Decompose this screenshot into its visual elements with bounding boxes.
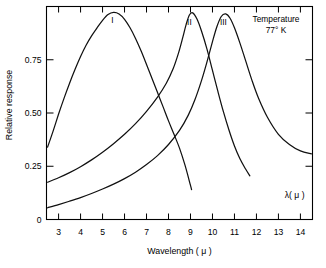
chart-figure: 3456789101112131400.250.500.75Wavelength… [0,0,326,268]
x-tick-label-13: 13 [274,227,284,237]
plot-border [47,7,313,220]
y-axis-title: Relative response [4,70,14,141]
curve-label-I: I [111,16,113,25]
relative-response-vs-wavelength-chart: 3456789101112131400.250.500.75Wavelength… [0,0,326,268]
axis-ticks [47,7,313,220]
x-tick-label-7: 7 [144,227,149,237]
lambda-axis-label: λ( μ ) [285,190,305,200]
x-tick-label-9: 9 [188,227,193,237]
curve-label-III: III [220,18,227,27]
x-tick-label-5: 5 [100,227,105,237]
x-tick-label-14: 14 [296,227,306,237]
x-tick-label-11: 11 [230,227,239,237]
data-curves [48,12,312,207]
x-tick-label-10: 10 [208,227,218,237]
temperature-annotation-line2: 77° K [266,25,287,35]
y-tick-label-0.25: 0.25 [25,161,42,171]
y-tick-label-0.75: 0.75 [25,55,42,65]
curve-II [48,13,250,183]
temperature-annotation-line1: Temperature [252,14,299,24]
x-tick-label-6: 6 [122,227,127,237]
x-axis-title: Wavelength ( μ ) [147,246,211,256]
x-tick-label-8: 8 [166,227,171,237]
x-tick-label-3: 3 [56,227,61,237]
x-tick-label-12: 12 [252,227,262,237]
y-tick-label-0.50: 0.50 [25,108,42,118]
x-tick-label-4: 4 [78,227,83,237]
curve-label-II: II [187,18,192,27]
y-tick-label-0: 0 [37,215,42,225]
plot-frame [47,7,313,220]
curve-I [48,12,192,189]
